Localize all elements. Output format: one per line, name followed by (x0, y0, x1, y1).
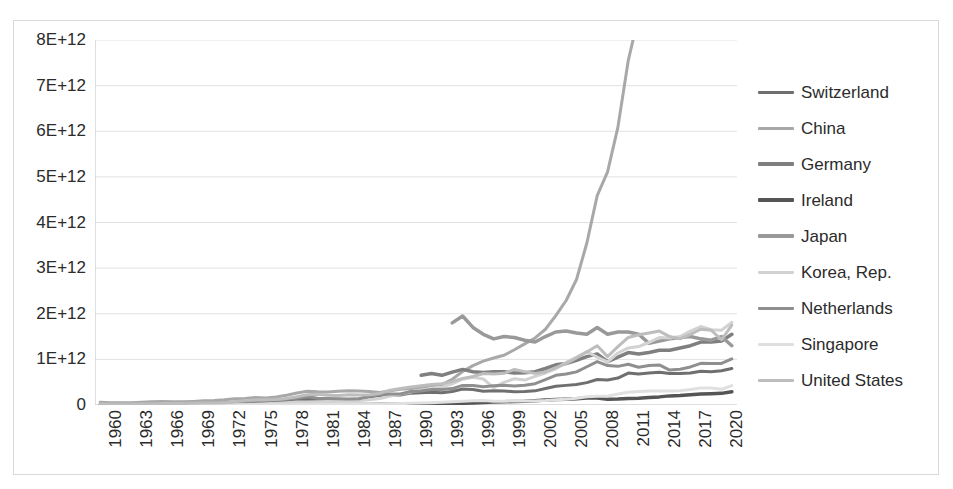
legend-label: Japan (801, 227, 847, 246)
legend-item[interactable]: Netherlands (758, 290, 943, 326)
x-axis-tick-label: 1984 (356, 410, 373, 448)
x-axis-tick-label: 1963 (138, 410, 155, 448)
x-axis-tick-label: 2002 (542, 410, 559, 448)
x-axis-labels: 1960196319661969197219751978198119841987… (95, 410, 737, 485)
series-line-china (100, 40, 732, 403)
x-axis-tick-label: 1972 (231, 410, 248, 448)
x-axis-tick-label: 1975 (263, 410, 280, 448)
x-axis-tick-label: 1981 (325, 410, 342, 448)
legend-item[interactable]: Singapore (758, 326, 943, 362)
legend-swatch-icon (758, 198, 794, 202)
x-axis-tick-label: 2020 (728, 410, 745, 448)
x-axis-tick-label: 2005 (573, 410, 590, 448)
legend-swatch-icon (758, 271, 794, 274)
x-axis-tick-label: 2017 (697, 410, 714, 448)
legend-swatch-icon (758, 234, 794, 238)
chart-container: 8E+127E+126E+125E+124E+123E+122E+121E+12… (0, 0, 953, 489)
legend-item[interactable]: Germany (758, 146, 943, 182)
x-axis-tick-label: 2014 (666, 410, 683, 448)
legend-label: China (801, 119, 845, 138)
x-axis-tick-label: 2008 (604, 410, 621, 448)
x-axis-tick-label: 1960 (107, 410, 124, 448)
chart-legend: SwitzerlandChinaGermanyIrelandJapanKorea… (758, 74, 943, 398)
legend-swatch-icon (758, 162, 794, 166)
plot-svg (95, 40, 737, 405)
plot-area (95, 40, 737, 405)
legend-swatch-icon (758, 379, 794, 382)
legend-swatch-icon (758, 343, 794, 346)
legend-item[interactable]: Switzerland (758, 74, 943, 110)
legend-swatch-icon (758, 91, 794, 94)
legend-label: Germany (801, 155, 871, 174)
legend-swatch-icon (758, 127, 794, 130)
legend-label: Netherlands (801, 299, 893, 318)
x-axis-tick-label: 2011 (635, 410, 652, 447)
legend-item[interactable]: China (758, 110, 943, 146)
legend-label: Singapore (801, 335, 879, 354)
legend-label: Switzerland (801, 83, 889, 102)
x-axis-tick-label: 1993 (449, 410, 466, 448)
x-axis-tick-label: 1987 (387, 410, 404, 448)
legend-item[interactable]: Japan (758, 218, 943, 254)
legend-label: Ireland (801, 191, 853, 210)
legend-label: Korea, Rep. (801, 263, 892, 282)
x-axis-tick-label: 1969 (200, 410, 217, 448)
x-axis-tick-label: 1966 (169, 410, 186, 448)
x-axis-tick-label: 1990 (418, 410, 435, 448)
legend-swatch-icon (758, 307, 794, 310)
x-axis-tick-label: 1996 (480, 410, 497, 448)
x-axis-tick-label: 1978 (294, 410, 311, 448)
x-axis-tick-label: 1999 (511, 410, 528, 448)
legend-label: United States (801, 371, 903, 390)
legend-item[interactable]: United States (758, 362, 943, 398)
legend-item[interactable]: Ireland (758, 182, 943, 218)
legend-item[interactable]: Korea, Rep. (758, 254, 943, 290)
